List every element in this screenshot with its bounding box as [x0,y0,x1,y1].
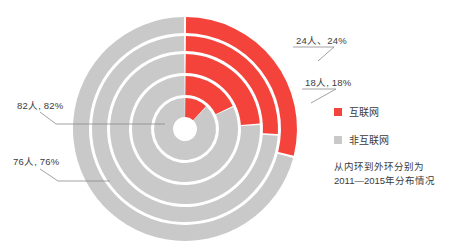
rings-group [73,17,297,241]
leader-line-a18 [302,89,336,103]
ring-2011-slice-non-internet[interactable] [154,98,216,160]
legend-label-non-internet: 非互联网 [349,132,389,147]
ring-2012 [132,76,238,182]
chart-root: 24人、24% 18人, 18% 82人, 82% 76人, 76% 互联网 非… [0,0,461,252]
legend-swatch-internet [334,108,342,116]
legend-item-non-internet[interactable]: 非互联网 [334,132,456,147]
leader-line-a24 [293,47,334,61]
annotation-label-82: 82人, 82% [17,101,63,111]
legend-label-internet: 互联网 [349,104,379,119]
legend-swatch-non-internet [334,136,342,144]
ring-2011 [154,98,216,160]
legend-caption: 从内环到外环分别为 2011—2015年分布情况 [334,160,456,188]
legend-item-internet[interactable]: 互联网 [334,104,456,119]
chart-legend: 互联网 非互联网 从内环到外环分别为 2011—2015年分布情况 [334,104,456,188]
annotation-label-76: 76人, 76% [13,157,59,167]
annotation-label-18: 18人, 18% [305,78,351,88]
annotation-label-24: 24人、24% [296,36,347,46]
